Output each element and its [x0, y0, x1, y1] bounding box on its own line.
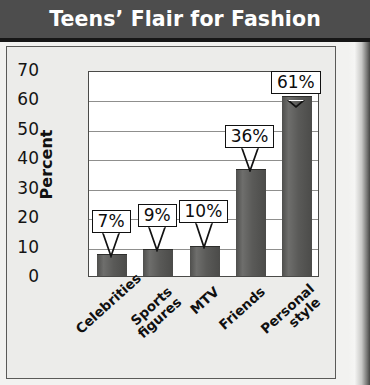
x-tick-label-line: Celebrities	[73, 284, 128, 336]
bar-4	[236, 169, 266, 276]
callout-4: 36%	[225, 125, 275, 148]
bar-2	[143, 249, 173, 276]
data-label-2: 9%	[138, 204, 177, 227]
y-tick-label-30: 30	[0, 180, 39, 197]
photo-bleed-edge	[348, 42, 370, 385]
x-tick-label-1: Celebrities	[73, 284, 128, 336]
callout-tail-1	[102, 233, 120, 257]
y-tick-label-70: 70	[0, 62, 39, 79]
chart-panel: Percent 706050403020100 7%9%10%36%61% Ce…	[6, 46, 336, 379]
callout-1: 7%	[92, 210, 131, 233]
y-axis-title: Percent	[37, 120, 56, 210]
title-underline	[0, 38, 370, 42]
y-tick-label-60: 60	[0, 91, 39, 108]
y-tick-label-20: 20	[0, 209, 39, 226]
y-tick-label-0: 0	[0, 268, 39, 285]
callout-3: 10%	[179, 200, 229, 223]
x-tick-label-4: Friends	[212, 284, 267, 336]
x-tick-label-5: Personalstyle	[258, 284, 323, 346]
data-label-4: 36%	[225, 125, 275, 148]
bar-5	[282, 96, 312, 277]
chart-title-bar: Teens’ Flair for Fashion	[0, 0, 370, 38]
callout-tail-4	[241, 148, 259, 172]
callout-tail-5	[287, 94, 305, 102]
callout-tail-2	[148, 227, 166, 252]
callout-tail-3	[195, 223, 213, 249]
data-label-3: 10%	[179, 200, 229, 223]
data-label-5: 61%	[271, 71, 321, 94]
callout-2: 9%	[138, 204, 177, 227]
x-tick-label-line: Friends	[212, 284, 267, 336]
bar-3	[190, 246, 220, 276]
y-tick-label-50: 50	[0, 121, 39, 138]
y-tick-label-10: 10	[0, 239, 39, 256]
callout-5: 61%	[271, 71, 321, 94]
y-tick-label-40: 40	[0, 150, 39, 167]
chart-screenshot: Teens’ Flair for Fashion Percent 7060504…	[0, 0, 370, 385]
data-label-1: 7%	[92, 210, 131, 233]
chart-title: Teens’ Flair for Fashion	[0, 0, 370, 38]
